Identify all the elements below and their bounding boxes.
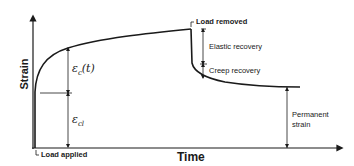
x-axis-label: Time [177, 150, 205, 164]
creep-curve [35, 29, 191, 148]
permanent-strain-label: Permanent strain [292, 110, 329, 130]
elastic-recovery-label: Elastic recovery [209, 42, 262, 51]
creep-strain-symbol: εc(t) [72, 62, 95, 77]
recovery-curve [191, 29, 300, 87]
load-applied-label: Load applied [41, 150, 87, 159]
load-removed-marker [191, 22, 194, 27]
load-removed-label: Load removed [196, 17, 247, 26]
creep-recovery-label: Creep recovery [209, 66, 260, 75]
y-axis-label: Strain [18, 54, 30, 94]
permanent-strain-label-line1: Permanent [292, 110, 329, 120]
elastic-strain-symbol: εcl [72, 113, 84, 128]
creep-strain-argument: (t) [82, 62, 95, 75]
load-applied-marker [36, 150, 39, 155]
creep-diagram [0, 0, 354, 166]
elastic-strain-subscript: cl [78, 120, 84, 128]
permanent-strain-label-line2: strain [292, 120, 329, 130]
